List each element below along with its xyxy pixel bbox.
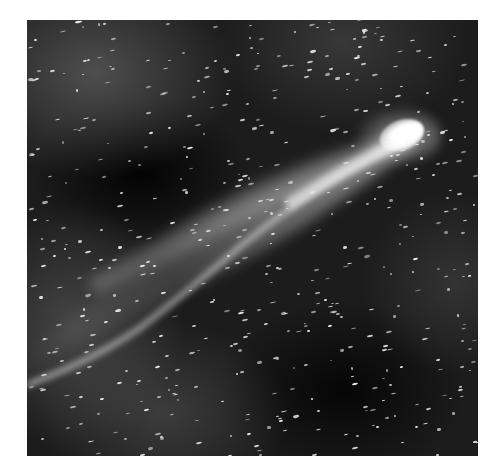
star — [379, 38, 382, 41]
star — [375, 425, 378, 427]
star — [203, 132, 206, 134]
star — [340, 348, 344, 351]
star — [168, 389, 170, 391]
star — [193, 385, 197, 387]
star — [390, 272, 392, 274]
star — [64, 247, 67, 250]
star — [270, 211, 273, 214]
star — [152, 340, 156, 343]
star — [389, 383, 392, 385]
star — [36, 147, 41, 150]
star — [324, 298, 327, 300]
star — [272, 96, 276, 99]
star — [473, 174, 478, 177]
star — [87, 58, 91, 60]
star — [350, 367, 353, 370]
star — [32, 218, 36, 221]
star — [221, 400, 224, 402]
star — [467, 274, 470, 276]
star — [307, 330, 310, 332]
star — [400, 441, 403, 443]
star — [120, 192, 123, 194]
star — [270, 130, 274, 133]
star — [325, 54, 330, 57]
star — [78, 239, 83, 242]
star — [460, 101, 463, 104]
star — [436, 427, 440, 430]
star — [329, 67, 333, 69]
comet-tail — [27, 20, 478, 456]
star — [372, 424, 375, 426]
star — [113, 293, 116, 296]
star — [116, 308, 121, 311]
star — [453, 207, 457, 209]
star — [192, 324, 196, 326]
star — [222, 181, 225, 184]
star — [238, 348, 242, 351]
star — [392, 314, 396, 317]
star — [259, 454, 262, 456]
star — [256, 360, 261, 364]
star — [276, 266, 279, 269]
star — [327, 324, 331, 327]
star — [380, 87, 382, 89]
star — [61, 141, 64, 144]
star — [84, 293, 90, 297]
star — [160, 436, 164, 439]
star — [374, 197, 376, 199]
star — [175, 368, 180, 371]
star — [247, 177, 250, 180]
star — [435, 453, 439, 456]
star — [184, 190, 188, 193]
comet-photograph — [27, 20, 478, 456]
star — [205, 66, 209, 69]
star — [245, 103, 248, 105]
star — [357, 179, 360, 181]
star — [317, 409, 320, 412]
star — [226, 160, 229, 163]
star — [236, 373, 239, 375]
star — [148, 446, 154, 450]
star — [419, 202, 423, 205]
star — [461, 339, 464, 341]
star — [224, 266, 229, 269]
star — [128, 159, 131, 161]
star — [256, 64, 260, 66]
star — [79, 422, 83, 425]
star — [82, 308, 84, 311]
